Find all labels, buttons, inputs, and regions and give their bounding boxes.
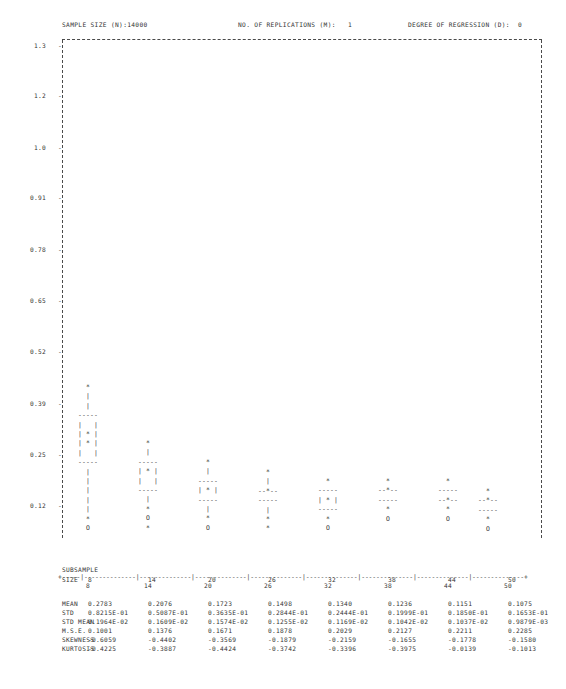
stat-mean-value-20: 0.1723 [208, 600, 232, 607]
y-tick-label: 0.91 [30, 194, 46, 201]
box-plot-column-44: * ----- --*-- * O [431, 477, 465, 524]
y-tick-mark: - [58, 400, 62, 407]
box-plot-column-8: * | | ----- | | | * | | * | | | ----- | … [71, 383, 105, 534]
y-tick-1.2: 1.2- [0, 92, 62, 102]
stat-kurtosis-value-50: -0.1013 [508, 645, 536, 652]
stat-kurtosis-value-8: -0.4225 [88, 645, 116, 652]
stat-kurtosis-value-20: -0.4424 [208, 645, 236, 652]
stat-row-label-std: STD [62, 609, 74, 616]
stat-mean-value-14: 0.2076 [148, 600, 172, 607]
stat-mean-value-26: 0.1498 [268, 600, 292, 607]
stat-std-value-14: 0.5087E-01 [148, 609, 188, 616]
stat-mean-value-38: 0.1236 [388, 600, 412, 607]
y-tick-label: 0.39 [30, 400, 46, 407]
stat-row-label-mean: MEAN [62, 600, 78, 607]
box-plot-column-50: * --*-- ----- * O [471, 487, 505, 534]
stat-mean-value-44: 0.1151 [448, 600, 472, 607]
stat-std-value-32: 0.2444E-01 [328, 609, 368, 616]
y-tick-label: 0.25 [30, 451, 46, 458]
stat-std-value-26: 0.2844E-01 [268, 609, 308, 616]
stat-mse-value-50: 0.2285 [508, 627, 532, 634]
y-tick-mark: - [58, 348, 62, 355]
stat-std-mean-value-32: 0.1169E-02 [328, 618, 368, 625]
stat-kurtosis-value-14: -0.3887 [148, 645, 176, 652]
y-tick-label: 0.52 [30, 348, 46, 355]
subsample-size-44: 44 [448, 576, 456, 583]
y-tick-0.52: 0.52- [0, 348, 62, 358]
stat-std-value-8: 0.8215E-01 [88, 609, 128, 616]
y-tick-0.12: 0.12- [0, 502, 62, 512]
y-tick-0.25: 0.25- [0, 451, 62, 461]
subsample-size-14: 14 [148, 576, 156, 583]
stat-skewness-value-8: -0.6059 [88, 636, 116, 643]
subsample-size-26: 26 [268, 576, 276, 583]
subsample-size-20: 20 [208, 576, 216, 583]
stat-skewness-value-32: -0.2159 [328, 636, 356, 643]
replications-label: NO. OF REPLICATIONS (M): 1 [238, 21, 352, 28]
size-row-label: SIZE [62, 576, 78, 583]
stat-skewness-value-14: -0.4402 [148, 636, 176, 643]
y-tick-label: 0.12 [30, 502, 46, 509]
stat-mean-value-32: 0.1340 [328, 600, 352, 607]
stat-std-mean-value-38: 0.1042E-02 [388, 618, 428, 625]
stat-kurtosis-value-26: -0.3742 [268, 645, 296, 652]
subsample-size-32: 32 [328, 576, 336, 583]
stat-std-value-44: 0.1850E-01 [448, 609, 488, 616]
stat-row-label-mse: M.S.E. [62, 627, 86, 634]
stat-mse-value-26: 0.1878 [268, 627, 292, 634]
box-plot-column-26: * | --*-- ----- | * * [251, 468, 285, 534]
y-tick-mark: - [58, 451, 62, 458]
stat-kurtosis-value-44: -0.0139 [448, 645, 476, 652]
subsample-heading: SUBSAMPLE [0, 566, 566, 576]
box-plot-column-14: * | ----- | * | | | ----- | * O * [131, 439, 165, 533]
size-heading-row: SIZE 814202632384450 [0, 576, 566, 586]
stat-mean-value-50: 0.1075 [508, 600, 532, 607]
plot-header: SAMPLE SIZE (N):14000 NO. OF REPLICATION… [0, 21, 566, 33]
y-tick-mark: - [58, 297, 62, 304]
stat-kurtosis-value-38: -0.3975 [388, 645, 416, 652]
y-tick-mark: - [58, 194, 62, 201]
stat-row-kurtosis: KURTOSIS-0.4225-0.3887-0.4424-0.3742-0.3… [0, 645, 566, 655]
y-tick-0.65: 0.65- [0, 297, 62, 307]
y-tick-mark: - [58, 502, 62, 509]
y-tick-mark: - [58, 92, 62, 99]
stat-skewness-value-38: -0.1655 [388, 636, 416, 643]
y-tick-0.91: 0.91- [0, 194, 62, 204]
y-tick-1.0: 1.0- [0, 144, 62, 154]
y-tick-mark: - [58, 246, 62, 253]
y-tick-label: 1.2 [34, 92, 46, 99]
stat-std-mean-value-14: 0.1609E-02 [148, 618, 188, 625]
stat-mse-value-14: 0.1376 [148, 627, 172, 634]
y-tick-mark: - [58, 144, 62, 151]
y-tick-0.78: 0.78- [0, 246, 62, 256]
y-tick-label: 1.0 [34, 144, 46, 151]
stat-mse-value-20: 0.1671 [208, 627, 232, 634]
subsample-size-38: 38 [388, 576, 396, 583]
subsample-size-50: 50 [508, 576, 516, 583]
stat-mse-value-32: 0.2029 [328, 627, 352, 634]
stat-std-value-38: 0.1999E-01 [388, 609, 428, 616]
stat-std-value-50: 0.1653E-01 [508, 609, 548, 616]
y-tick-label: 1.3 [34, 42, 46, 49]
stat-std-mean-value-8: 0.1964E-02 [88, 618, 128, 625]
stat-std-mean-value-44: 0.1037E-02 [448, 618, 488, 625]
stat-std-mean-value-20: 0.1574E-02 [208, 618, 248, 625]
stat-skewness-value-50: -0.1580 [508, 636, 536, 643]
sample-size-label: SAMPLE SIZE (N):14000 [62, 21, 148, 28]
degree-of-regression-label: DEGREE OF REGRESSION (D): 0 [408, 21, 522, 28]
stat-skewness-value-20: -0.3569 [208, 636, 236, 643]
plot-top-border [62, 39, 542, 40]
y-tick-label: 0.78 [30, 246, 46, 253]
stat-skewness-value-26: -0.1879 [268, 636, 296, 643]
box-plot-column-32: * ----- | * | ----- * O [311, 477, 345, 533]
stat-std-mean-value-50: 0.9879E-03 [508, 618, 548, 625]
plot-left-axis [62, 40, 63, 538]
stat-std-mean-value-26: 0.1255E-02 [268, 618, 308, 625]
stat-mse-value-38: 0.2127 [388, 627, 412, 634]
y-tick-0.39: 0.39- [0, 400, 62, 410]
y-tick-label: 0.65 [30, 297, 46, 304]
stat-std-value-20: 0.3635E-01 [208, 609, 248, 616]
stat-mse-value-44: 0.2211 [448, 627, 472, 634]
box-plot-column-20: * | ----- | * | ----- | * O [191, 458, 225, 533]
y-tick-1.3: 1.3- [0, 42, 62, 52]
